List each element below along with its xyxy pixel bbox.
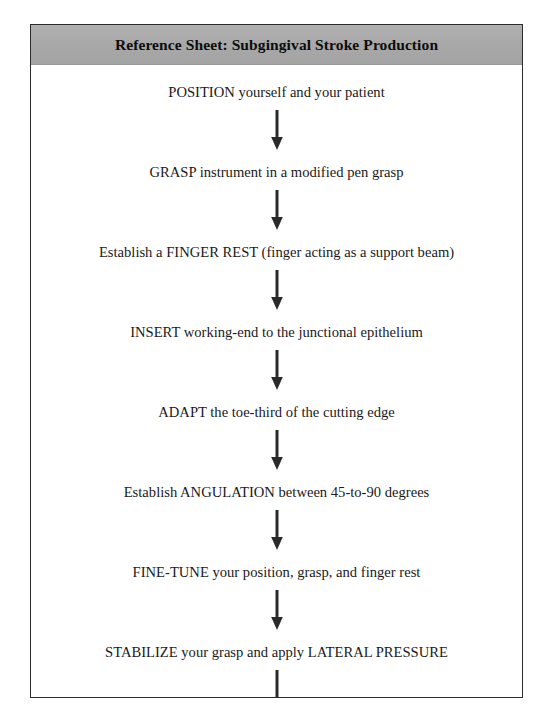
flow-step: POSITION yourself and your patient <box>168 83 384 101</box>
sheet-title-band: Reference Sheet: Subgingival Stroke Prod… <box>31 25 522 65</box>
flow-step-label: ADAPT the toe-third of the cutting edge <box>158 403 394 421</box>
flow-step: ADAPT the toe-third of the cutting edge <box>158 403 394 421</box>
down-arrow-icon <box>267 430 287 474</box>
flow-step: Establish a FINGER REST (finger acting a… <box>99 243 454 261</box>
flow-step-label: FINE-TUNE your position, grasp, and fing… <box>133 563 421 581</box>
down-arrow-icon <box>267 350 287 394</box>
flow-step-label: Establish ANGULATION between 45-to-90 de… <box>124 483 430 501</box>
flow-step-label: GRASP instrument in a modified pen grasp <box>149 163 403 181</box>
flow-step: Establish ANGULATION between 45-to-90 de… <box>124 483 430 501</box>
flow-step: GRASP instrument in a modified pen grasp <box>149 163 403 181</box>
flow-step: INSERT working-end to the junctional epi… <box>130 323 423 341</box>
flow-step-label: INSERT working-end to the junctional epi… <box>130 323 423 341</box>
down-arrow-icon <box>267 590 287 634</box>
flow-step: FINE-TUNE your position, grasp, and fing… <box>133 563 421 581</box>
flow-step-label: POSITION yourself and your patient <box>168 83 384 101</box>
down-arrow-icon <box>267 270 287 314</box>
down-arrow-icon <box>267 190 287 234</box>
flow-step-label: STABILIZE your grasp and apply LATERAL P… <box>105 643 448 661</box>
down-arrow-icon <box>267 110 287 154</box>
page-title: Reference Sheet: Subgingival Stroke Prod… <box>115 36 438 54</box>
down-arrow-icon <box>267 510 287 554</box>
flowchart: POSITION yourself and your patientGRASP … <box>31 65 522 698</box>
flow-step-label: Establish a FINGER REST (finger acting a… <box>99 243 454 261</box>
flow-step: STABILIZE your grasp and apply LATERAL P… <box>105 643 448 661</box>
down-arrow-icon <box>267 670 287 698</box>
reference-sheet-page: Reference Sheet: Subgingival Stroke Prod… <box>30 24 523 698</box>
